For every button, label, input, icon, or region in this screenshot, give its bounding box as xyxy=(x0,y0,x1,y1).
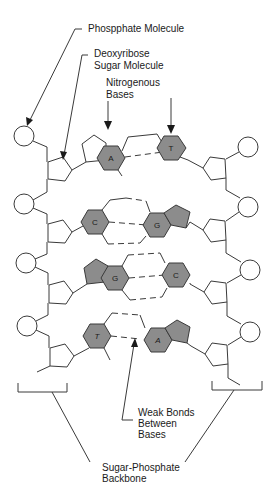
base-label: C xyxy=(92,218,98,227)
phosphate-circle xyxy=(14,194,34,214)
base-label: C xyxy=(173,271,179,280)
right-backbone-bracket xyxy=(212,381,262,390)
right-backbone xyxy=(188,137,260,385)
phosphate-circle xyxy=(17,316,37,336)
backbone-label-line1: Sugar-Phosphate xyxy=(102,462,180,473)
base-label: T xyxy=(169,144,174,153)
weak-bonds-label-line2: Between xyxy=(138,418,177,429)
sugar-pentagon xyxy=(203,219,226,242)
base-label: G xyxy=(112,274,118,283)
phosphate-leader xyxy=(30,29,82,120)
sugar-pentagon xyxy=(205,343,228,366)
sugar-label-line1: Deoxyribose xyxy=(94,48,150,59)
sugar-pentagon xyxy=(50,344,74,367)
base-pair-2: C G xyxy=(81,198,190,244)
dna-diagram: A T C G G C xyxy=(0,0,278,498)
backbone-leader-left xyxy=(52,392,90,462)
phosphate-label: Phospphate Molecule xyxy=(88,23,185,34)
phosphate-circle xyxy=(240,260,260,280)
left-backbone-bracket xyxy=(18,383,67,392)
weak-bonds-leader xyxy=(122,344,134,420)
sugar-leader xyxy=(64,55,88,155)
sugar-pentagon xyxy=(48,157,72,181)
base-label: A xyxy=(154,336,160,345)
base-pair-1: A T xyxy=(82,134,188,176)
sugar-pentagon xyxy=(204,281,227,304)
phosphate-circle xyxy=(16,253,36,273)
backbone-leader-right xyxy=(185,390,234,462)
phosphate-circle xyxy=(238,197,258,217)
bases-label-line2: Bases xyxy=(106,89,134,100)
phosphate-circle xyxy=(14,126,34,146)
base-pair-3: G C xyxy=(84,253,190,300)
sugar-pentagon xyxy=(203,157,226,180)
base-label: A xyxy=(108,154,114,163)
backbone-label-line2: Backbone xyxy=(102,473,147,484)
weak-bonds-label-line1: Weak Bonds xyxy=(138,407,195,418)
sugar-label-line2: Sugar Molecule xyxy=(94,60,164,71)
sugar-pentagon xyxy=(48,220,72,243)
sugar-pentagon xyxy=(49,281,73,304)
base-pair-4: T A xyxy=(83,313,191,360)
phosphate-circle xyxy=(238,137,258,157)
base-label: G xyxy=(154,221,160,230)
bases-label-line1: Nitrogenous xyxy=(106,77,160,88)
weak-bonds-label-line3: Bases xyxy=(138,429,166,440)
phosphate-circle xyxy=(240,322,260,342)
left-backbone xyxy=(14,126,89,372)
